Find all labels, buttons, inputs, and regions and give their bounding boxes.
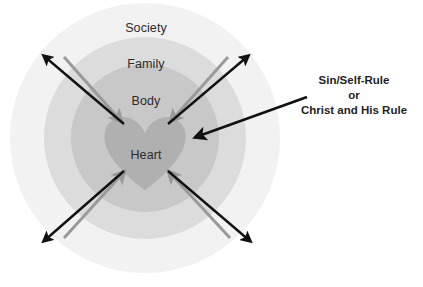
annotation-label: Sin/Self-Rule or Christ and His Rule bbox=[285, 73, 423, 118]
diagram-svg bbox=[0, 0, 423, 287]
ring-label-society: Society bbox=[106, 21, 186, 35]
diagram-canvas: Society Family Body Heart Sin/Self-Rule … bbox=[0, 0, 423, 287]
ring-label-body: Body bbox=[106, 94, 186, 108]
annotation-line-3: Christ and His Rule bbox=[285, 103, 423, 118]
annotation-line-2: or bbox=[285, 88, 423, 103]
ring-label-heart: Heart bbox=[106, 148, 186, 162]
annotation-line-1: Sin/Self-Rule bbox=[285, 73, 423, 88]
ring-label-family: Family bbox=[106, 57, 186, 71]
